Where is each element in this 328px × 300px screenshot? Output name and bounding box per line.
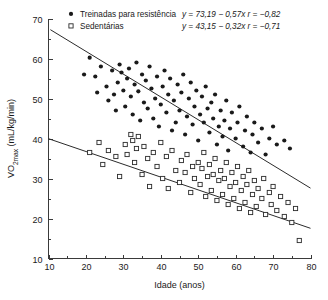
- data-point-sedentary: [151, 150, 155, 154]
- data-point-trained: [114, 108, 118, 112]
- data-point-trained: [271, 124, 275, 128]
- data-point-trained: [176, 82, 180, 86]
- data-point-sedentary: [241, 174, 245, 178]
- x-tick-label: 70: [268, 262, 278, 272]
- data-point-sedentary: [174, 168, 178, 172]
- data-point-sedentary: [142, 144, 146, 148]
- data-point-sedentary: [230, 170, 234, 174]
- data-point-trained: [256, 140, 260, 144]
- data-point-trained: [127, 66, 131, 70]
- data-point-sedentary: [129, 132, 133, 136]
- data-point-trained: [149, 86, 153, 90]
- data-point-sedentary: [237, 206, 241, 210]
- data-point-trained: [99, 64, 103, 68]
- equation-expression-2: y = 43,15 − 0,32x: [181, 22, 246, 31]
- data-point-trained: [219, 108, 223, 112]
- data-point-trained: [95, 90, 99, 94]
- data-point-trained: [134, 60, 138, 64]
- data-point-trained: [209, 100, 213, 104]
- data-point-trained: [93, 74, 97, 78]
- data-point-sedentary: [170, 148, 174, 152]
- data-point-trained: [129, 94, 133, 98]
- data-point-trained: [192, 104, 196, 108]
- data-point-sedentary: [159, 140, 163, 144]
- data-point-sedentary: [211, 172, 215, 176]
- data-point-trained: [112, 92, 116, 96]
- data-point-trained: [140, 72, 144, 76]
- data-point-sedentary: [234, 180, 238, 184]
- data-point-trained: [166, 92, 170, 96]
- data-point-sedentary: [239, 188, 243, 192]
- data-point-trained: [245, 114, 249, 118]
- data-point-trained: [123, 104, 127, 108]
- data-point-sedentary: [161, 176, 165, 180]
- y-tick-label: 60: [32, 55, 42, 65]
- data-point-trained: [191, 122, 195, 126]
- data-point-trained: [213, 92, 217, 96]
- data-point-sedentary: [166, 186, 170, 190]
- data-point-trained: [125, 76, 129, 80]
- scatter-plot-figure: Treinadas para resistênciay = 73,19 − 0,…: [0, 0, 328, 300]
- data-point-sedentary: [136, 134, 140, 138]
- correlation-value-1: r = −0,82: [248, 10, 281, 19]
- data-point-sedentary: [278, 194, 282, 198]
- data-point-sedentary: [179, 158, 183, 162]
- data-point-trained: [170, 128, 174, 132]
- data-point-sedentary: [219, 168, 223, 172]
- data-point-trained: [168, 76, 172, 80]
- legend-layer: Treinadas para resistênciay = 73,19 − 0,…: [69, 10, 281, 31]
- data-point-sedentary: [140, 172, 144, 176]
- data-point-trained: [205, 106, 209, 110]
- data-point-trained: [172, 98, 176, 102]
- y-axis-title-subscript: 2max: [12, 148, 19, 165]
- data-point-sedentary: [204, 194, 208, 198]
- data-point-sedentary: [222, 176, 226, 180]
- axes-layer: [49, 19, 312, 260]
- data-point-trained: [224, 98, 228, 102]
- x-tick-label: 80: [306, 262, 316, 272]
- axis-labels-layer: 102030405060708010203040506070Idade (ano…: [6, 15, 317, 290]
- data-point-trained: [215, 142, 219, 146]
- data-point-sedentary: [202, 150, 206, 154]
- data-point-sedentary: [177, 180, 181, 184]
- data-point-sedentary: [101, 162, 105, 166]
- data-point-trained: [226, 148, 230, 152]
- data-point-trained: [151, 116, 155, 120]
- x-tick-label: 40: [156, 262, 166, 272]
- data-point-sedentary: [205, 174, 209, 178]
- data-point-sedentary: [191, 164, 195, 168]
- data-point-sedentary: [217, 178, 221, 182]
- data-point-trained: [132, 82, 136, 86]
- data-point-trained: [241, 144, 245, 148]
- data-point-trained: [196, 138, 200, 142]
- data-point-sedentary: [254, 204, 258, 208]
- data-point-trained: [174, 120, 178, 124]
- data-point-sedentary: [198, 182, 202, 186]
- data-point-trained: [207, 130, 211, 134]
- equation-expression-1: y = 73,19 − 0,57x: [181, 10, 246, 19]
- data-point-sedentary: [192, 176, 196, 180]
- data-point-trained: [183, 132, 187, 136]
- data-point-trained: [177, 108, 181, 112]
- x-tick-label: 10: [44, 262, 54, 272]
- data-point-sedentary: [209, 188, 213, 192]
- data-point-sedentary: [215, 198, 219, 202]
- data-point-trained: [228, 126, 232, 130]
- chart-svg: Treinadas para resistênciay = 73,19 − 0,…: [0, 0, 328, 300]
- y-tick-label: 70: [32, 15, 42, 25]
- data-point-trained: [267, 136, 271, 140]
- data-point-sedentary: [275, 208, 279, 212]
- legend-marker-filled-circle: [69, 12, 73, 16]
- data-point-trained: [202, 120, 206, 124]
- data-point-sedentary: [114, 154, 118, 158]
- data-point-sedentary: [200, 166, 204, 170]
- data-point-trained: [263, 152, 267, 156]
- data-point-sedentary: [262, 176, 266, 180]
- data-point-trained: [282, 138, 286, 142]
- legend-equation-2: y = 43,15 − 0,32x r = −0,71: [181, 22, 280, 31]
- data-point-trained: [106, 98, 110, 102]
- data-points-layer: [82, 56, 301, 243]
- y-tick-label: 20: [32, 215, 42, 225]
- data-point-sedentary: [88, 150, 92, 154]
- data-point-sedentary: [245, 182, 249, 186]
